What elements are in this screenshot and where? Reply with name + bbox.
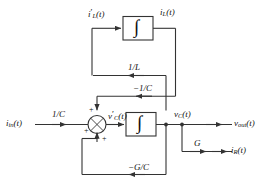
gain-label-G: G	[194, 139, 201, 148]
block-diagram-canvas: i′L(t) iL(t) 1/L −1/C iin(t) 1/C v′C(t) …	[0, 0, 268, 189]
summing-sign-left: +	[84, 127, 89, 135]
integrator-symbol-capacitor: ∫	[137, 113, 142, 132]
gain-label-minusGoverC: −G/C	[128, 163, 149, 172]
gain-label-1overL: 1/L	[128, 63, 140, 72]
label-resistor-current: iR(t)	[231, 146, 246, 156]
label-output-voltage: vout(t)	[234, 119, 255, 129]
gain-label-1overC: 1/C	[52, 110, 65, 119]
label-inductor-current: iL(t)	[160, 8, 175, 18]
label-cap-voltage-derivative: v′C(t)	[108, 110, 127, 122]
label-input-current: iin(t)	[6, 119, 22, 129]
integrator-symbol-inductor: ∫	[134, 17, 139, 36]
summing-sign-top: +	[89, 106, 94, 114]
gain-label-minus1overC: −1/C	[133, 84, 152, 93]
label-cap-voltage: vC(t)	[174, 110, 191, 120]
summing-sign-bottom: +	[102, 135, 107, 143]
label-inductor-current-derivative: i′L(t)	[88, 8, 105, 20]
